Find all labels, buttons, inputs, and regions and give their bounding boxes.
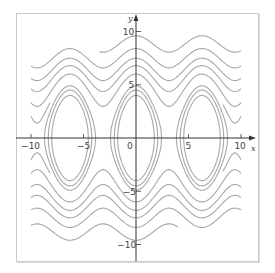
y-tick-label: 5	[128, 80, 134, 90]
axes: −10−50510−10−5510 x y	[16, 14, 256, 261]
y-tick-label: 10	[123, 27, 135, 37]
trajectory	[223, 153, 241, 171]
x-axis-label: x	[251, 144, 256, 153]
x-tick-label: 5	[186, 141, 192, 151]
x-tick-label: 0	[127, 141, 133, 151]
phase-portrait-chart: −10−50510−10−5510 x y	[0, 0, 275, 273]
trajectory	[31, 224, 178, 240]
y-axis-label: y	[127, 14, 133, 23]
y-tick-label: −10	[117, 240, 136, 250]
y-tick-label: −5	[123, 187, 136, 197]
trajectory	[223, 105, 241, 123]
x-tick-label: −5	[77, 141, 90, 151]
x-tick-label: 10	[234, 141, 246, 151]
x-tick-label: −10	[21, 141, 40, 151]
y-axis-arrow-icon	[134, 14, 139, 21]
trajectory	[99, 36, 241, 52]
x-axis-arrow-icon	[249, 136, 256, 141]
